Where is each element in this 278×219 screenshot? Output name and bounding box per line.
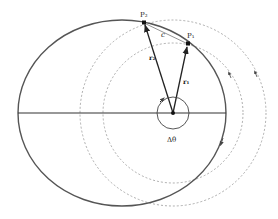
point-p2 [142,21,146,25]
orbit-diagram: P₂ P₁ c r₂ r₁ Δθ [0,0,278,219]
vector-r2 [145,25,173,113]
label-chord: c [161,31,165,39]
point-p1 [186,42,190,46]
label-p2: P₂ [140,11,148,19]
focus-point [171,111,175,115]
label-delta-theta: Δθ [167,136,176,144]
label-p1: P₁ [187,32,195,40]
label-r2: r₂ [149,54,155,62]
label-r1: r₁ [183,78,189,86]
